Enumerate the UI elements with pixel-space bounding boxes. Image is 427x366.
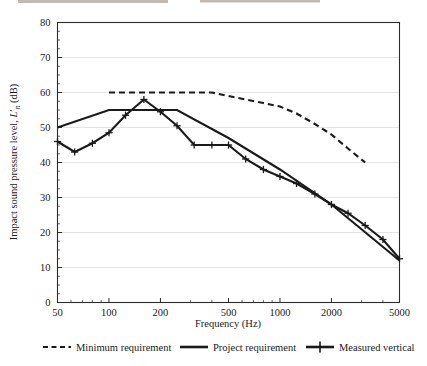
x-tick-label-2000: 2000 — [321, 307, 342, 318]
y-axis-title-prefix: Impact sound pressure level, — [8, 118, 19, 241]
legend-label-measured-vertical: Measured vertical — [339, 342, 415, 353]
x-axis-title: Frequency (Hz) — [195, 318, 262, 330]
y-axis-tick-labels: 01020304050607080 — [40, 17, 51, 308]
chart-canvas: 01020304050607080 5010020050010002000500… — [0, 0, 427, 366]
y-tick-label-10: 10 — [40, 262, 51, 273]
x-tick-label-1000: 1000 — [269, 307, 290, 318]
y-tick-label-70: 70 — [40, 52, 51, 63]
x-tick-label-200: 200 — [153, 307, 169, 318]
x-tick-label-100: 100 — [101, 307, 117, 318]
y-axis-title-suffix: (dB) — [8, 83, 20, 105]
y-tick-label-50: 50 — [40, 122, 51, 133]
impact-sound-chart-figure: 01020304050607080 5010020050010002000500… — [0, 0, 427, 366]
y-tick-label-0: 0 — [45, 297, 50, 308]
legend-label-project-requirement: Project requirement — [213, 342, 296, 353]
y-tick-label-80: 80 — [40, 17, 51, 28]
chart-background — [0, 0, 427, 366]
y-tick-label-40: 40 — [40, 157, 51, 168]
x-tick-label-500: 500 — [221, 307, 237, 318]
chart-legend: Minimum requirement Project requirement … — [43, 342, 415, 354]
y-tick-label-60: 60 — [40, 87, 51, 98]
y-tick-label-30: 30 — [40, 192, 51, 203]
x-tick-label-50: 50 — [52, 307, 63, 318]
y-tick-label-20: 20 — [40, 227, 51, 238]
x-tick-label-5000: 5000 — [389, 307, 410, 318]
legend-label-minimum-requirement: Minimum requirement — [76, 342, 171, 353]
